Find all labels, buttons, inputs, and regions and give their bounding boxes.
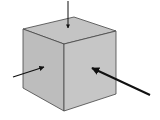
cube-right-face: [64, 31, 116, 111]
cube-force-diagram: [0, 0, 160, 120]
